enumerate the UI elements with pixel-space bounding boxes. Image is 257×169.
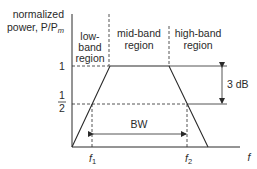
bandwidth-diagram: normalized power, P/Pm low- band region … xyxy=(0,0,257,169)
f2-label-subscript: 2 xyxy=(188,157,192,166)
bandwidth-label: BW xyxy=(131,118,148,130)
region-low-line3: region xyxy=(75,52,104,64)
f1-label-subscript: 1 xyxy=(92,157,96,166)
three-db-label: 3 dB xyxy=(227,78,249,90)
y-axis-label-main: power, P/P xyxy=(7,21,58,33)
region-high-line2: region xyxy=(183,39,212,51)
y-tick-one: 1 xyxy=(59,60,65,72)
region-mid-line1: mid-band xyxy=(117,27,161,39)
y-axis-label-subscript: m xyxy=(58,26,64,35)
y-axis-label-line2: power, P/Pm xyxy=(7,21,64,35)
region-high-line1: high-band xyxy=(175,27,222,39)
y-tick-half-numerator: 1 xyxy=(59,89,65,101)
region-mid-line2: region xyxy=(124,39,153,51)
y-axis-label-line1: normalized xyxy=(13,8,65,20)
y-tick-half-denominator: 2 xyxy=(59,102,65,114)
f1-label: f1 xyxy=(89,152,96,166)
x-axis-label: f xyxy=(248,151,252,163)
f2-label: f2 xyxy=(185,152,192,166)
